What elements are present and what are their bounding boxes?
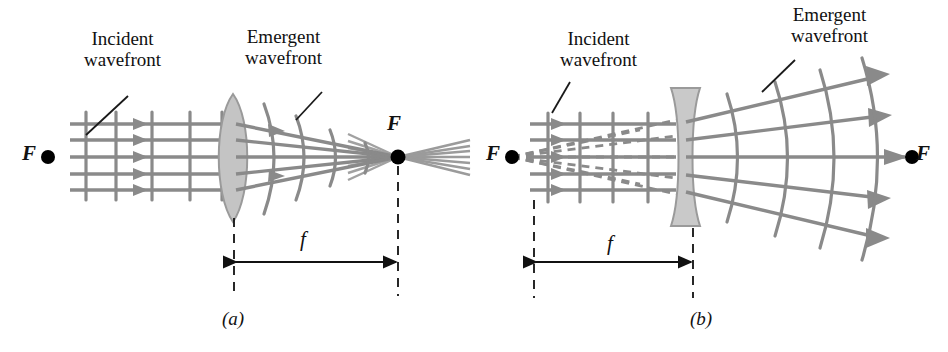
panel-b-incident-wavefront-label: Incident wavefront bbox=[560, 28, 637, 71]
panel-a-incident-wavefront-label: Incident wavefront bbox=[84, 28, 161, 71]
panel-b-emergent-leader bbox=[762, 60, 795, 92]
panel-a-focal-dot-right bbox=[391, 150, 406, 165]
panel-a-emergent-wavefront-label: Emergent wavefront bbox=[245, 26, 322, 69]
panel-a-focal-label-right: F bbox=[387, 112, 401, 136]
panel-a-focal-label-left: F bbox=[22, 142, 36, 166]
panel-b-caption: (b) bbox=[690, 308, 712, 329]
panel-b-incident-leader bbox=[552, 82, 570, 113]
panel-b-group bbox=[505, 58, 919, 298]
panel-a-incident-ray-arrowheads bbox=[133, 118, 148, 196]
panel-b-emergent-wavefronts bbox=[727, 58, 878, 260]
panel-b-focal-dot-left bbox=[505, 150, 519, 164]
panel-a-emergent-wavefronts bbox=[264, 104, 369, 214]
panel-a-caption: (a) bbox=[222, 308, 244, 329]
panel-a-incident-leader bbox=[86, 96, 128, 135]
panel-a-emergent-rays bbox=[236, 124, 398, 190]
panel-a-focal-length-label: f bbox=[300, 228, 306, 252]
panel-b-emergent-wavefront-label: Emergent wavefront bbox=[791, 4, 868, 47]
panel-a-focal-dot-left bbox=[41, 150, 55, 164]
panel-a-post-focus-rays bbox=[398, 140, 470, 175]
optics-figure: Incident wavefront Emergent wavefront F … bbox=[0, 0, 948, 352]
panel-a-group bbox=[41, 92, 470, 296]
panel-b-focal-length-label: f bbox=[607, 232, 613, 256]
panel-a-emergent-leader bbox=[296, 92, 322, 120]
panel-b-focal-label-left: F bbox=[486, 142, 500, 166]
panel-b-focal-label-right: F bbox=[916, 142, 930, 166]
